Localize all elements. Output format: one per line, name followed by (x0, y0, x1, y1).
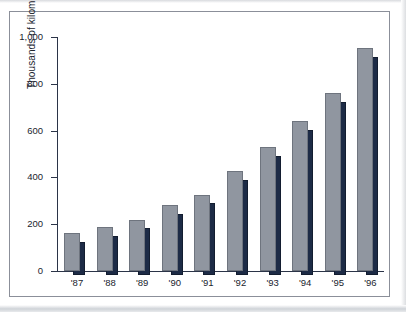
bar-front[interactable] (162, 205, 178, 271)
scan-edge-bottom (0, 305, 406, 312)
y-axis-tick-label: 1,000 (19, 30, 43, 43)
bar-group[interactable]: '92 (227, 37, 260, 271)
bar-front[interactable] (357, 48, 373, 271)
y-axis-tick: 200 (51, 224, 58, 225)
x-axis-tick-label: '92 (225, 277, 255, 289)
y-axis-tick-label: 200 (27, 217, 43, 230)
y-axis-tick: 600 (51, 131, 58, 132)
bar-front[interactable] (227, 171, 243, 271)
x-axis-tick-label: '91 (192, 277, 222, 289)
bar-front[interactable] (129, 220, 145, 271)
y-axis-tick: 400 (51, 177, 58, 178)
x-axis-tick-label: '93 (258, 277, 288, 289)
x-axis-tick-label: '88 (95, 277, 125, 289)
plot-area: 02004006008001,000 '87'88'89'90'91'92'93… (57, 37, 383, 271)
bar-group[interactable]: '95 (325, 37, 358, 271)
bar-front[interactable] (194, 195, 210, 271)
bar-front[interactable] (292, 121, 308, 271)
bar-group[interactable]: '88 (97, 37, 130, 271)
x-axis-tick-label: '89 (127, 277, 157, 289)
x-axis-tick-label: '95 (323, 277, 353, 289)
bar-group[interactable]: '94 (292, 37, 325, 271)
y-axis-tick-label: 800 (27, 77, 43, 90)
y-axis-tick: 1,000 (51, 37, 58, 38)
bar-series-container: '87'88'89'90'91'92'93'94'95'96 (58, 37, 384, 271)
bar-group[interactable]: '96 (357, 37, 390, 271)
bar-front[interactable] (260, 147, 276, 271)
bar-front[interactable] (325, 93, 341, 271)
bar-group[interactable]: '91 (194, 37, 227, 271)
bar-group[interactable]: '87 (64, 37, 97, 271)
y-axis-title: Thousands of kilometers (26, 0, 37, 89)
scan-edge-right (401, 0, 406, 312)
y-axis-tick: 800 (51, 84, 58, 85)
chart-page: Thousands of kilometers 02004006008001,0… (0, 0, 406, 312)
x-axis-tick-label: '90 (160, 277, 190, 289)
x-axis-tick-label: '94 (290, 277, 320, 289)
bar-group[interactable]: '90 (162, 37, 195, 271)
y-axis-title-wrapper: Thousands of kilometers (28, 37, 42, 271)
bar-group[interactable]: '93 (260, 37, 293, 271)
y-axis-tick-label: 600 (27, 124, 43, 137)
x-axis-tick-label: '96 (355, 277, 385, 289)
bar-group[interactable]: '89 (129, 37, 162, 271)
scan-edge-top (0, 0, 406, 3)
chart-frame: Thousands of kilometers 02004006008001,0… (9, 11, 390, 297)
y-axis-tick-label: 400 (27, 170, 43, 183)
y-axis-tick: 0 (51, 271, 58, 272)
y-axis-tick-label: 0 (38, 264, 43, 277)
x-axis-tick-label: '87 (62, 277, 92, 289)
bar-front[interactable] (97, 227, 113, 271)
bar-front[interactable] (64, 233, 80, 271)
